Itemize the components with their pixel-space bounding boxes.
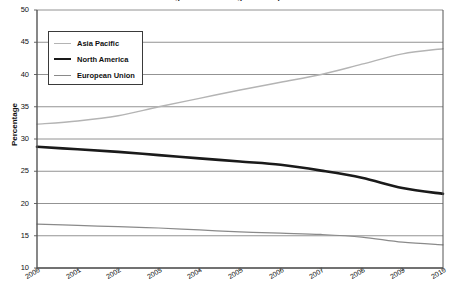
legend-label: North America	[77, 55, 128, 64]
series-line	[37, 224, 443, 245]
legend: Asia PacificNorth AmericaEuropean Union	[48, 31, 143, 85]
legend-item[interactable]: North America	[49, 51, 142, 67]
series-line	[37, 147, 443, 194]
legend-swatch-icon	[54, 58, 71, 60]
legend-label: European Union	[77, 71, 135, 80]
legend-swatch-icon	[54, 43, 71, 44]
legend-item[interactable]: Asia Pacific	[49, 35, 142, 51]
legend-swatch-icon	[54, 75, 71, 76]
legend-item[interactable]: European Union	[49, 67, 142, 83]
line-chart: Regional share of global output Percenta…	[0, 0, 455, 297]
legend-label: Asia Pacific	[77, 39, 119, 48]
